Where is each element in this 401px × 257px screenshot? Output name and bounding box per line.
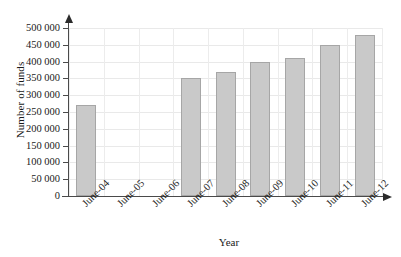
- y-axis-tick: [63, 95, 69, 96]
- y-axis-tick-label: 250 000: [0, 107, 60, 117]
- y-axis-tick: [63, 146, 69, 147]
- gridline-vertical: [104, 28, 105, 196]
- y-axis-tick-label: 450 000: [0, 40, 60, 50]
- y-axis-tick: [63, 62, 69, 63]
- y-axis-tick: [63, 112, 69, 113]
- gridline-vertical: [243, 28, 244, 196]
- y-axis-line: [68, 22, 69, 197]
- gridline-vertical: [347, 28, 348, 196]
- y-axis-tick-label: 0: [0, 191, 60, 201]
- y-axis-tick-label: 200 000: [0, 124, 60, 134]
- gridline-vertical: [382, 28, 383, 196]
- gridline-horizontal: [69, 28, 382, 29]
- gridline-vertical: [208, 28, 209, 196]
- y-axis-arrow-icon: [65, 14, 73, 23]
- y-axis-tick: [63, 196, 69, 197]
- gridline-vertical: [69, 28, 70, 196]
- y-axis-tick-label: 350 000: [0, 73, 60, 83]
- y-axis-tick: [63, 179, 69, 180]
- gridline-vertical: [312, 28, 313, 196]
- y-axis-tick: [63, 28, 69, 29]
- x-axis-title: Year: [69, 236, 389, 248]
- y-axis-tick-label: 400 000: [0, 57, 60, 67]
- y-axis-tick: [63, 45, 69, 46]
- y-axis-tick: [63, 78, 69, 79]
- y-axis-tick-label: 50 000: [0, 174, 60, 184]
- y-axis-tick: [63, 162, 69, 163]
- bar: [76, 105, 96, 196]
- y-axis-tick-label: 150 000: [0, 141, 60, 151]
- gridline-vertical: [278, 28, 279, 196]
- x-axis-arrow-icon: [383, 193, 392, 201]
- y-axis-tick-label: 300 000: [0, 90, 60, 100]
- y-axis-tick-label: 500 000: [0, 23, 60, 33]
- gridline-vertical: [173, 28, 174, 196]
- gridline-vertical: [139, 28, 140, 196]
- y-axis-tick-label: 100 000: [0, 157, 60, 167]
- y-axis-tick: [63, 129, 69, 130]
- bar-chart: Number of funds 050 000100 000150 000200…: [0, 0, 401, 257]
